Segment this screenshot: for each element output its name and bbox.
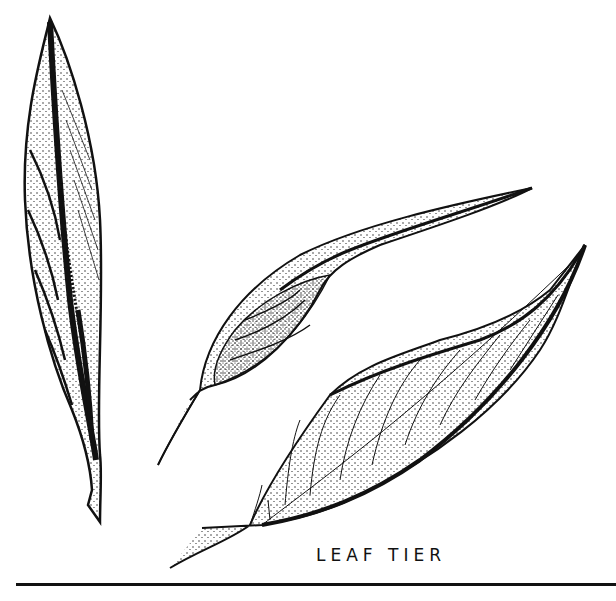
leaf-drawing: [0, 0, 616, 601]
rolled-leaf: [25, 18, 101, 522]
illustration-caption: LEAF TIER: [316, 545, 446, 565]
illustration-canvas: LEAF TIER: [0, 0, 616, 601]
horizontal-rule: [16, 583, 616, 586]
open-leaf: [170, 245, 585, 568]
